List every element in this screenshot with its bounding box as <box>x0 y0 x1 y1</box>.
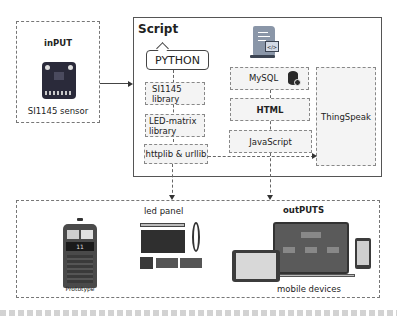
module-label: LED-matrix <box>149 116 201 126</box>
script-code-icon: </> <box>250 26 280 59</box>
input-box: inPUT SI1145 sensor <box>16 21 100 123</box>
arrow-right-icon <box>312 153 317 159</box>
html-module: HTML <box>230 98 310 121</box>
smartphone-icon <box>355 238 371 269</box>
led-panel-label: led panel <box>144 206 183 216</box>
led-panel-kit-icon <box>140 222 226 282</box>
gear-icon <box>294 79 301 86</box>
input-to-script-connector <box>100 83 128 84</box>
script-title: Script <box>138 22 178 36</box>
tablet-icon <box>232 250 280 282</box>
module-label: library <box>149 126 201 136</box>
mysql-label: MySQL <box>249 73 278 83</box>
si1145-sensor-board-icon <box>42 62 76 99</box>
javascript-label: JavaScript <box>249 137 292 147</box>
prototype-label: Prototype <box>55 284 105 293</box>
module-label: httplib & urllib <box>146 149 207 159</box>
outputs-title: outPUTS <box>283 205 324 215</box>
led-matrix-library-module: LED-matrix library <box>145 114 205 137</box>
httplib-urllib-module: httplib & urllib <box>144 144 208 164</box>
thingspeak-label: ThingSpeak <box>321 112 371 122</box>
sensor-label: SI1145 sensor <box>17 105 99 117</box>
module-label: library <box>152 94 198 104</box>
thingspeak-service: ThingSpeak <box>316 67 376 166</box>
javascript-module: JavaScript <box>229 130 312 153</box>
input-title: inPUT <box>17 37 99 49</box>
laptop-icon <box>273 222 353 278</box>
module-label: SI1145 <box>152 84 198 94</box>
python-callout: PYTHON <box>146 50 209 70</box>
html-label: HTML <box>257 105 284 115</box>
mysql-module: MySQL <box>230 67 309 90</box>
python-label: PYTHON <box>155 54 200 67</box>
cropped-caption-fragment <box>0 310 397 316</box>
si1145-library-module: SI1145 library <box>145 82 205 105</box>
mobile-devices-label: mobile devices <box>264 283 354 295</box>
prototype-display: 11 <box>66 242 94 251</box>
prototype-device-icon: 11 <box>63 218 97 294</box>
